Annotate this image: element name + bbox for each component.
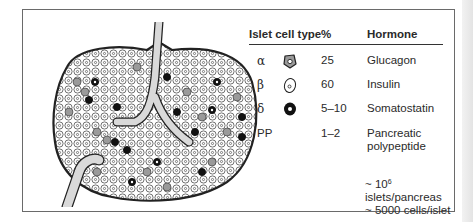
figure-frame: Islet cell type % Hormone α 25 Glucagon …	[22, 9, 455, 212]
legend-header: Islet cell type % Hormone	[249, 28, 449, 44]
beta-cell-icon	[281, 76, 299, 94]
cell-symbol: δ	[257, 102, 264, 116]
note-cells-per-islet: ~ 5000 cells/islet	[365, 204, 454, 217]
header-cell-type: Islet cell type	[249, 28, 321, 40]
header-hormone: Hormone	[367, 28, 417, 40]
legend-row-delta: δ 5–10 Somatostatin	[249, 100, 449, 122]
cell-hormone: Insulin	[367, 78, 400, 91]
page-edge	[462, 0, 473, 222]
cell-hormone: Pancreatic polypeptide	[367, 127, 426, 153]
cell-percent: 5–10	[321, 102, 347, 114]
cell-type-legend: Islet cell type % Hormone α 25 Glucagon …	[249, 28, 449, 44]
legend-row-beta: β 60 Insulin	[249, 76, 449, 98]
cell-percent: 60	[321, 78, 334, 90]
cell-hormone: Glucagon	[367, 54, 416, 67]
islet-notes: ~ 106 islets/pancreas ~ 5000 cells/islet	[365, 175, 454, 217]
cell-symbol: β	[257, 78, 264, 92]
delta-cell-icon	[281, 100, 299, 118]
legend-row-pp: PP 1–2 Pancreatic polypeptide	[249, 125, 449, 155]
note-islets-per-pancreas: ~ 106 islets/pancreas	[365, 175, 454, 204]
cell-percent: 25	[321, 54, 334, 66]
legend-row-alpha: α 25 Glucagon	[249, 52, 449, 74]
islet-illustration	[37, 22, 263, 207]
header-percent: %	[321, 28, 331, 40]
header-rule	[249, 44, 443, 45]
alpha-cell-icon	[281, 52, 299, 70]
hormone-line-1: Pancreatic	[367, 127, 421, 139]
cell-hormone: Somatostatin	[367, 102, 434, 115]
cell-percent: 1–2	[321, 127, 340, 139]
cell-symbol: α	[257, 54, 265, 68]
cell-symbol: PP	[257, 127, 272, 139]
hormone-line-2: polypeptide	[367, 140, 426, 152]
